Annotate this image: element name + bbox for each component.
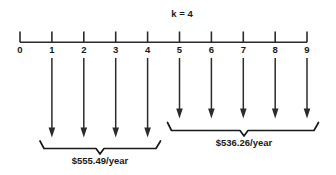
interest-rate-label: k = 4 (171, 8, 193, 19)
arrow-head-2 (81, 128, 88, 138)
axis-tick-group (20, 32, 307, 43)
tick-label-0: 0 (17, 44, 22, 55)
cash-flow-diagram: k = 4 0 1 2 3 4 5 6 7 8 9 (0, 0, 336, 175)
arrow-head-6 (208, 109, 215, 119)
cash-flow-arrow-7 (240, 58, 247, 119)
tick-label-8: 8 (273, 44, 278, 55)
tick-label-2: 2 (81, 44, 86, 55)
tick-label-6: 6 (209, 44, 214, 55)
brace-label-group-one: $555.49/year (72, 155, 129, 166)
cash-flow-arrow-9 (304, 58, 311, 119)
cash-flow-arrow-1 (49, 58, 56, 138)
tick-label-7: 7 (241, 44, 246, 55)
cash-flow-arrow-5 (176, 58, 183, 119)
arrow-head-5 (176, 109, 183, 119)
cash-flow-arrow-4 (144, 58, 151, 138)
arrow-head-4 (144, 128, 151, 138)
tick-label-3: 3 (113, 44, 118, 55)
cash-flow-arrow-group-two (176, 58, 310, 119)
cash-flow-arrow-8 (272, 58, 279, 119)
arrow-head-3 (112, 128, 119, 138)
tick-label-1: 1 (49, 44, 55, 55)
cash-flow-canvas: k = 4 0 1 2 3 4 5 6 7 8 9 (0, 0, 336, 175)
brace-group-one (40, 141, 161, 154)
tick-label-4: 4 (145, 44, 151, 55)
arrow-head-8 (272, 109, 279, 119)
cash-flow-arrow-3 (112, 58, 119, 138)
cash-flow-arrow-group-one (49, 58, 151, 138)
brace-label-group-two: $536.26/year (216, 137, 273, 148)
arrow-head-1 (49, 128, 56, 138)
cash-flow-arrow-2 (81, 58, 88, 138)
arrow-head-7 (240, 109, 247, 119)
axis-tick-label-group: 0 1 2 3 4 5 6 7 8 9 (17, 44, 309, 55)
brace-group-two (168, 123, 319, 137)
cash-flow-arrow-6 (208, 58, 215, 119)
tick-label-9: 9 (304, 44, 309, 55)
arrow-head-9 (304, 109, 311, 119)
tick-label-5: 5 (177, 44, 183, 55)
